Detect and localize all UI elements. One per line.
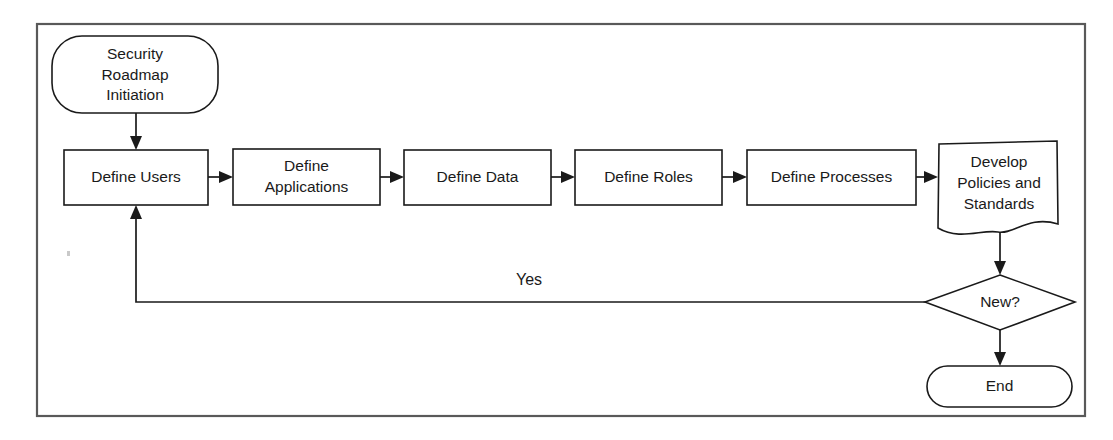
define-data-label: Define Data [437,168,519,185]
start-label-line2: Roadmap [101,66,168,83]
node-define-users[interactable]: Define Users [64,150,208,205]
node-end[interactable]: End [927,366,1072,407]
define-users-label: Define Users [91,168,181,185]
flowchart-canvas: Security Roadmap Initiation Define Users… [0,0,1113,440]
define-processes-label: Define Processes [771,168,893,185]
node-define-applications[interactable]: Define Applications [233,149,380,205]
develop-policies-label-line2: Policies and [957,174,1041,191]
edge-users-to-applications [208,171,233,183]
edge-roles-to-processes [722,171,747,183]
define-roles-label: Define Roles [604,168,693,185]
flowchart-diagram: Security Roadmap Initiation Define Users… [0,0,1113,440]
start-label-line1: Security [107,45,163,62]
edge-data-to-roles [551,171,575,183]
end-label: End [986,377,1014,394]
edge-start-to-define-users [130,113,142,150]
edge-label-yes: Yes [516,271,542,288]
define-applications-label-line2: Applications [265,178,349,195]
define-applications-label-line1: Define [284,157,329,174]
decision-new-label: New? [980,293,1020,310]
start-label-line3: Initiation [106,86,164,103]
node-start[interactable]: Security Roadmap Initiation [52,36,218,113]
node-define-processes[interactable]: Define Processes [747,150,916,205]
edge-decision-to-end [994,330,1006,366]
develop-policies-label-line1: Develop [971,153,1028,170]
node-develop-policies[interactable]: Develop Policies and Standards [938,141,1058,234]
edge-processes-to-policies [916,171,938,183]
edge-applications-to-data [380,171,404,183]
scan-artifact [67,251,70,256]
node-define-roles[interactable]: Define Roles [575,150,722,205]
node-decision-new[interactable]: New? [925,275,1075,330]
node-define-data[interactable]: Define Data [404,150,551,205]
edge-policies-to-decision [994,233,1006,275]
develop-policies-label-line3: Standards [964,195,1035,212]
